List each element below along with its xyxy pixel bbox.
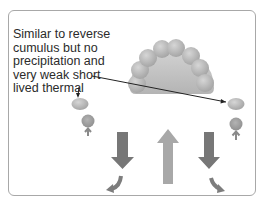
right-curved-outflow-arrow — [211, 178, 225, 193]
left-curved-outflow-arrow — [106, 176, 121, 193]
left-small-cloud — [72, 98, 95, 136]
diagram-canvas — [0, 0, 263, 201]
right-downdraft-arrow — [198, 132, 220, 169]
small-up-arrow-icon — [85, 129, 91, 137]
right-small-cloud — [228, 98, 245, 140]
central-updraft-arrow — [157, 129, 179, 184]
small-up-arrow-icon — [233, 132, 240, 141]
left-downdraft-arrow — [111, 132, 134, 169]
